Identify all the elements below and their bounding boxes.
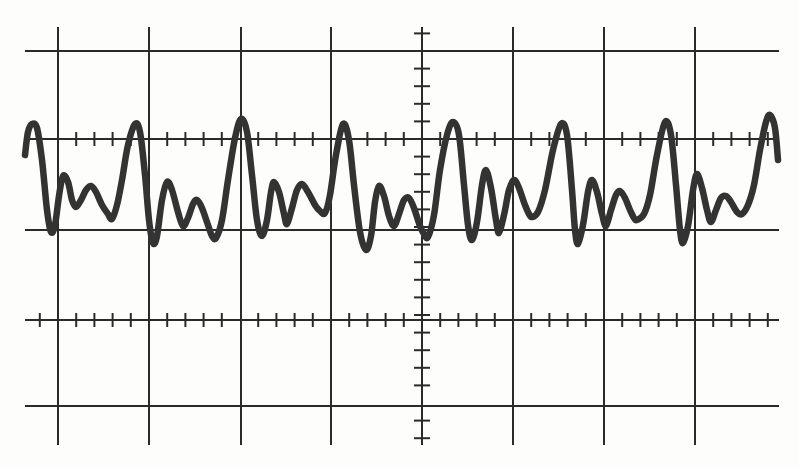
graticule-grid xyxy=(25,27,779,445)
oscilloscope-display: Oscilloscope graticule with periodic com… xyxy=(0,0,799,469)
graticule-and-trace xyxy=(0,0,799,469)
